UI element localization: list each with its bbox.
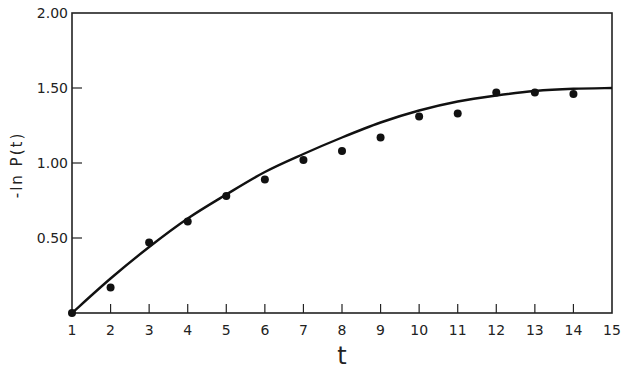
y-tick-label: 1.50 bbox=[37, 80, 68, 96]
x-tick-label: 3 bbox=[145, 322, 154, 338]
x-tick-label: 6 bbox=[260, 322, 269, 338]
data-point bbox=[261, 176, 269, 184]
data-point bbox=[68, 309, 76, 317]
x-tick-label: 1 bbox=[68, 322, 77, 338]
x-tick-label: 8 bbox=[338, 322, 347, 338]
fitted-curve bbox=[72, 88, 612, 313]
data-point bbox=[415, 113, 423, 121]
y-tick-label: 0.50 bbox=[37, 230, 68, 246]
y-axis-label: -ln P(t) bbox=[8, 132, 26, 199]
plot-frame bbox=[72, 13, 612, 313]
data-point bbox=[338, 147, 346, 155]
data-point bbox=[107, 284, 115, 292]
x-tick-label: 14 bbox=[565, 322, 583, 338]
x-tick-label: 13 bbox=[526, 322, 544, 338]
data-point bbox=[299, 156, 307, 164]
x-tick-label: 15 bbox=[603, 322, 621, 338]
data-point bbox=[145, 239, 153, 247]
x-tick-label: 12 bbox=[487, 322, 505, 338]
y-tick-label: 1.00 bbox=[37, 155, 68, 171]
x-tick-label: 10 bbox=[410, 322, 428, 338]
x-axis-label: t bbox=[337, 342, 346, 370]
data-point bbox=[184, 218, 192, 226]
data-points bbox=[68, 89, 577, 318]
data-point bbox=[222, 192, 230, 200]
x-tick-label: 4 bbox=[183, 322, 192, 338]
data-point bbox=[454, 110, 462, 118]
x-tick-label: 2 bbox=[106, 322, 115, 338]
y-axis-ticks: 0.501.001.502.00 bbox=[37, 5, 82, 246]
data-point bbox=[531, 89, 539, 97]
x-tick-label: 9 bbox=[376, 322, 385, 338]
data-point bbox=[569, 90, 577, 98]
x-tick-label: 11 bbox=[449, 322, 467, 338]
data-point bbox=[492, 89, 500, 97]
chart: 0.501.001.502.00 123456789101112131415 t… bbox=[0, 0, 624, 370]
x-axis-ticks: 123456789101112131415 bbox=[68, 304, 621, 338]
x-tick-label: 7 bbox=[299, 322, 308, 338]
y-tick-label: 2.00 bbox=[37, 5, 68, 21]
data-point bbox=[377, 134, 385, 142]
x-tick-label: 5 bbox=[222, 322, 231, 338]
